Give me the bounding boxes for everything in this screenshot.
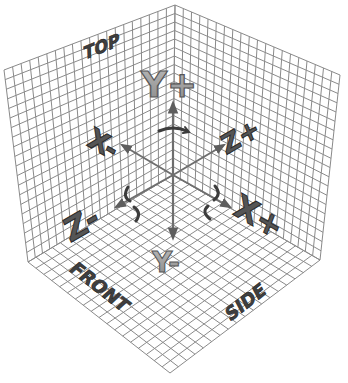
rotation-arrow-z2-icon [134, 207, 139, 221]
grid-line [175, 5, 340, 75]
grid-line [175, 22, 338, 94]
face-label-top: TOP [83, 29, 120, 64]
grid-line [175, 39, 336, 112]
axis-label-y-minus: Y- [151, 246, 180, 279]
grid-line [175, 31, 337, 103]
axis-x-positive [173, 175, 230, 207]
axis-label-z-minus: Z- [59, 197, 105, 250]
axis-label-y-plus: Y+ [140, 64, 197, 105]
face-label-side: SIDE [222, 278, 269, 326]
grid-line [175, 14, 339, 85]
rotation-arrow-x-icon [214, 186, 218, 200]
cube-grid-canvas: TOP FRONT SIDE Y+ Y- X- Z+ Z- X+ [0, 0, 348, 383]
axis-x-negative [122, 145, 173, 175]
grid-line [170, 260, 320, 373]
axis-label-z-plus: Z+ [217, 112, 264, 160]
axes-diagram: TOP FRONT SIDE Y+ Y- X- Z+ Z- X+ [0, 0, 348, 383]
